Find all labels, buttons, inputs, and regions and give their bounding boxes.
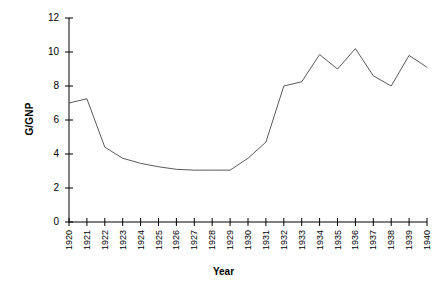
x-axis-ticks	[69, 218, 427, 226]
chart-figure: G/GNP 024681012 192019211922192319241925…	[0, 0, 447, 290]
x-axis-title: Year	[0, 266, 447, 277]
plot-area	[0, 0, 447, 290]
axis-lines	[69, 18, 427, 222]
data-series-line	[69, 49, 427, 171]
